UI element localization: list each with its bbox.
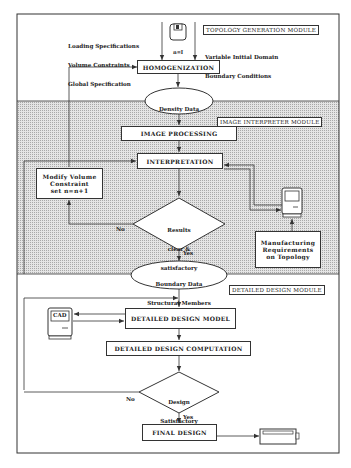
image-processing-box: IMAGE PROCESSING — [121, 126, 237, 141]
boundary-data-label: Boundary Data Structural Members — [134, 268, 224, 313]
floppy-disk-icon — [170, 24, 186, 40]
disk-label: n=I — [173, 50, 183, 56]
homogenization-box: HOMOGENIZATION — [137, 60, 220, 74]
manufacturing-box: Manufacturing Requirements on Topology — [255, 231, 321, 268]
design-yes-label: Yes — [183, 414, 193, 420]
final-design-box: FINAL DESIGN — [142, 424, 217, 441]
results-no-label: No — [116, 226, 125, 232]
detailed-module-tag: DETAILED DESIGN MODULE — [229, 285, 325, 295]
design-no-label: No — [126, 396, 135, 402]
detailed-model-box: DETAILED DESIGN MODEL — [125, 308, 236, 329]
printer-icon — [260, 429, 299, 444]
results-yes-label: Yes — [183, 250, 193, 256]
interpretation-box: INTERPRETATION — [137, 153, 223, 169]
input-specs-left: Loading Specifications Volume Constraint… — [68, 30, 139, 94]
cad-label: CAD — [53, 312, 66, 318]
topology-module-tag: TOPOLOGY GENERATION MODULE — [203, 25, 319, 35]
modify-volume-box: Modify Volume Constraint set n=n+1 — [36, 168, 103, 199]
detailed-computation-box: DETAILED DESIGN COMPUTATION — [106, 341, 251, 356]
computer-icon — [282, 188, 302, 217]
